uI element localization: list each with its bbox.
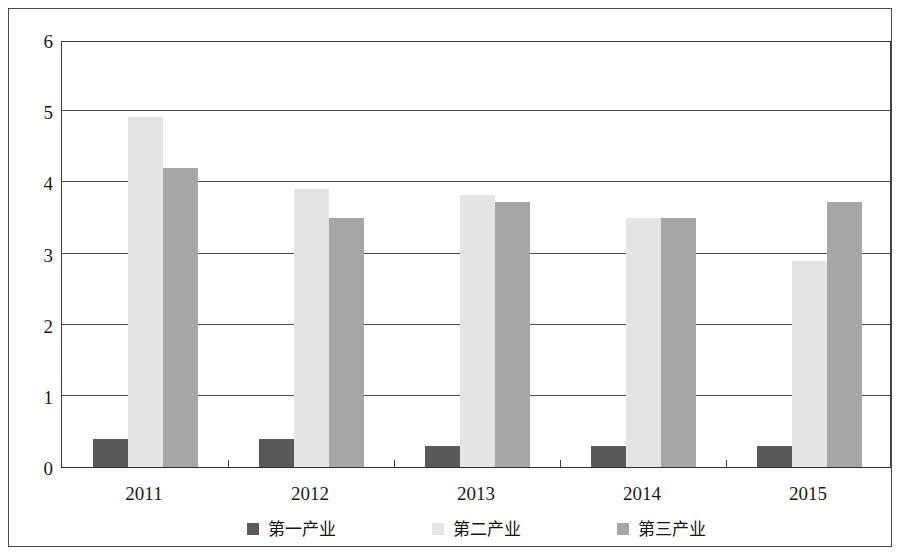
legend-swatch-icon-3: [617, 523, 629, 535]
x-axis-tick: [228, 460, 229, 467]
bar-2015-series2: [792, 261, 827, 467]
bar-2012-series2: [294, 189, 329, 467]
x-axis: 20112012201320142015: [61, 475, 891, 507]
y-tick-label-4: 4: [19, 174, 53, 193]
x-tick-label-2012: 2012: [291, 483, 329, 505]
chart-legend: 第一产业第二产业第三产业: [61, 514, 891, 544]
bar-2011-series2: [128, 117, 163, 467]
legend-item-2[interactable]: 第二产业: [432, 519, 521, 539]
y-axis: 0123456: [9, 41, 53, 468]
y-tick-label-1: 1: [19, 387, 53, 406]
x-axis-tick: [726, 460, 727, 467]
bar-2013-series1: [425, 446, 460, 467]
legend-label-1: 第一产业: [268, 519, 336, 539]
x-tick-label-2013: 2013: [457, 483, 495, 505]
legend-item-3[interactable]: 第三产业: [617, 519, 706, 539]
legend-label-3: 第三产业: [638, 519, 706, 539]
y-tick-label-3: 3: [19, 245, 53, 264]
x-tick-label-2014: 2014: [623, 483, 661, 505]
bar-2015-series1: [757, 446, 792, 467]
bar-2013-series2: [460, 195, 495, 467]
bar-2014-series2: [626, 218, 661, 467]
bar-2014-series3: [661, 218, 696, 467]
y-tick-label-6: 6: [19, 32, 53, 51]
bar-2013-series3: [495, 202, 530, 467]
bar-2012-series3: [329, 218, 364, 467]
legend-swatch-icon-1: [247, 523, 259, 535]
chart-figure: 0123456 20112012201320142015 第一产业第二产业第三产…: [8, 8, 892, 547]
y-tick-label-0: 0: [19, 459, 53, 478]
legend-item-1[interactable]: 第一产业: [247, 519, 336, 539]
x-axis-tick: [394, 460, 395, 467]
bar-2015-series3: [827, 202, 862, 467]
y-tick-label-2: 2: [19, 316, 53, 335]
legend-swatch-icon-2: [432, 523, 444, 535]
bar-2011-series1: [93, 439, 128, 467]
plot-area: [61, 41, 891, 468]
legend-label-2: 第二产业: [453, 519, 521, 539]
x-axis-tick: [560, 460, 561, 467]
bar-series-layer: [62, 42, 890, 467]
bar-2014-series1: [591, 446, 626, 467]
x-tick-label-2015: 2015: [789, 483, 827, 505]
bar-2012-series1: [259, 439, 294, 467]
y-tick-label-5: 5: [19, 103, 53, 122]
bar-2011-series3: [163, 168, 198, 467]
x-tick-label-2011: 2011: [125, 483, 162, 505]
